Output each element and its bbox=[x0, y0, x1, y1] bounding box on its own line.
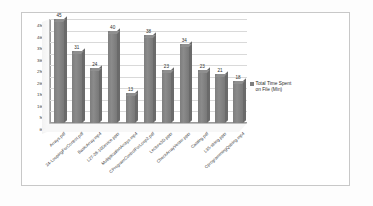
bar[interactable]: 31 bbox=[72, 51, 81, 123]
chart-side-wall bbox=[42, 19, 50, 134]
bar-value-label: 31 bbox=[74, 45, 79, 50]
legend-item: Total Time Spent on File (Min) bbox=[250, 81, 346, 93]
bar-value-label: 23 bbox=[164, 64, 169, 69]
y-axis: 051015202530354045 bbox=[22, 19, 42, 131]
legend-label: Total Time Spent on File (Min) bbox=[256, 81, 292, 93]
bar-value-label: 40 bbox=[110, 25, 115, 30]
bar-face bbox=[54, 19, 63, 123]
chart-container[interactable]: 051015202530354045 453124401338233423211… bbox=[21, 12, 350, 186]
bar-side-face bbox=[64, 16, 67, 123]
x-axis-labels: Arrays.pdf24-LoopingForControl.pdfBasicA… bbox=[50, 131, 280, 195]
bar-side-face bbox=[117, 28, 120, 123]
bar-value-label: 13 bbox=[128, 87, 133, 92]
bar-side-face bbox=[82, 49, 85, 123]
bar-value-label: 34 bbox=[182, 38, 187, 43]
chart-legend[interactable]: Total Time Spent on File (Min) bbox=[250, 81, 346, 93]
bar-value-label: 38 bbox=[146, 29, 151, 34]
bar-face bbox=[215, 74, 224, 123]
bar-value-label: 18 bbox=[235, 75, 240, 80]
bar-value-label: 21 bbox=[218, 68, 223, 73]
bar-top-face bbox=[198, 70, 210, 73]
bar[interactable]: 21 bbox=[215, 74, 224, 123]
bar[interactable]: 45 bbox=[54, 19, 63, 123]
bar-value-label: 24 bbox=[92, 62, 97, 67]
bar-side-face bbox=[225, 72, 228, 123]
legend-swatch-icon bbox=[250, 82, 254, 86]
bar-value-label: 23 bbox=[200, 64, 205, 69]
screenshot-canvas: 051015202530354045 453124401338233423211… bbox=[0, 0, 373, 206]
bar-face bbox=[72, 51, 81, 123]
bar-side-face bbox=[153, 32, 156, 123]
bar-value-label: 45 bbox=[56, 13, 61, 18]
